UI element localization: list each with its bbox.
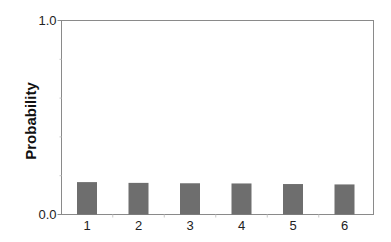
plot-area-border — [62, 21, 374, 215]
bar-6 — [335, 184, 355, 214]
x-tick-label: 5 — [289, 218, 296, 233]
bar-chart: 0.01.0 123456 Probability — [0, 0, 391, 242]
y-axis-label: Probability — [22, 82, 39, 160]
bars-group — [77, 182, 355, 214]
bar-5 — [283, 184, 303, 214]
bar-4 — [232, 183, 252, 214]
x-tick-label: 2 — [135, 218, 142, 233]
x-tick-label: 4 — [238, 218, 245, 233]
y-tick-label: 0.0 — [38, 207, 56, 222]
bar-3 — [180, 183, 200, 214]
y-tick-label: 1.0 — [38, 13, 56, 28]
bar-2 — [129, 183, 149, 215]
x-tick-label: 3 — [186, 218, 193, 233]
x-tick-label: 6 — [341, 218, 348, 233]
plot-frame — [62, 21, 374, 215]
x-tick-label: 1 — [83, 218, 90, 233]
bar-1 — [77, 182, 97, 214]
y-axis-ticks: 0.01.0 — [38, 13, 61, 222]
x-axis-ticks: 123456 — [83, 215, 348, 233]
